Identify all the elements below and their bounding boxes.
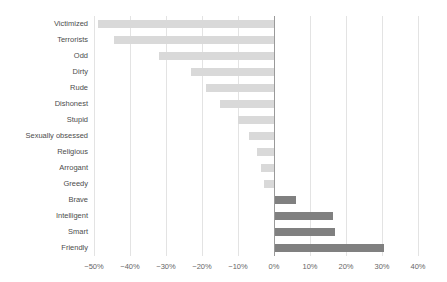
- zero-axis-line: [274, 16, 275, 256]
- bar-intelligent: [274, 212, 333, 220]
- bar-sexually-obsessed: [249, 132, 274, 140]
- y-label-arrogant: Arrogant: [0, 160, 88, 176]
- bar-dirty: [191, 68, 274, 76]
- y-label-friendly: Friendly: [0, 240, 88, 256]
- y-label-terrorists: Terrorists: [0, 32, 88, 48]
- bar-row: [94, 128, 418, 144]
- bar-row: [94, 208, 418, 224]
- bar-row: [94, 240, 418, 256]
- bar-row: [94, 48, 418, 64]
- bar-row: [94, 112, 418, 128]
- bar-row: [94, 144, 418, 160]
- y-label-brave: Brave: [0, 192, 88, 208]
- bar-row: [94, 160, 418, 176]
- bar-row: [94, 192, 418, 208]
- bar-rude: [206, 84, 274, 92]
- y-label-victimized: Victimized: [0, 16, 88, 32]
- bar-brave: [274, 196, 296, 204]
- bar-row: [94, 32, 418, 48]
- bar-row: [94, 64, 418, 80]
- x-tick-label: −20%: [182, 261, 222, 273]
- y-label-sexually-obsessed: Sexually obsessed: [0, 128, 88, 144]
- x-tick-label: 30%: [362, 261, 402, 273]
- x-tick-label: −10%: [218, 261, 258, 273]
- x-tick-label: 40%: [398, 261, 438, 273]
- y-label-dirty: Dirty: [0, 64, 88, 80]
- x-tick-label: −30%: [146, 261, 186, 273]
- bar-row: [94, 16, 418, 32]
- bar-terrorists: [114, 36, 274, 44]
- bar-stupid: [238, 116, 274, 124]
- bar-friendly: [274, 244, 384, 252]
- plot-area: [94, 16, 418, 256]
- y-label-smart: Smart: [0, 224, 88, 240]
- bar-row: [94, 80, 418, 96]
- x-tick-label: −50%: [74, 261, 114, 273]
- y-label-dishonest: Dishonest: [0, 96, 88, 112]
- x-tick-label: 20%: [326, 261, 366, 273]
- y-label-religious: Religious: [0, 144, 88, 160]
- x-axis-tick-labels: −50%−40%−30%−20%−10%0%10%20%30%40%: [0, 261, 447, 275]
- y-label-greedy: Greedy: [0, 176, 88, 192]
- x-tick-label: −40%: [110, 261, 150, 273]
- bar-arrogant: [261, 164, 274, 172]
- bar-row: [94, 224, 418, 240]
- y-label-intelligent: Intelligent: [0, 208, 88, 224]
- bar-religious: [257, 148, 274, 156]
- bar-smart: [274, 228, 335, 236]
- y-axis-category-labels: VictimizedTerroristsOddDirtyRudeDishones…: [0, 16, 88, 256]
- diverging-bar-chart: VictimizedTerroristsOddDirtyRudeDishones…: [0, 0, 447, 282]
- bar-dishonest: [220, 100, 274, 108]
- gridline-40: [418, 16, 419, 256]
- y-label-rude: Rude: [0, 80, 88, 96]
- bar-greedy: [264, 180, 274, 188]
- y-label-odd: Odd: [0, 48, 88, 64]
- bar-victimized: [98, 20, 274, 28]
- bar-row: [94, 96, 418, 112]
- bar-odd: [159, 52, 274, 60]
- bar-row: [94, 176, 418, 192]
- x-tick-label: 10%: [290, 261, 330, 273]
- y-label-stupid: Stupid: [0, 112, 88, 128]
- x-tick-label: 0%: [254, 261, 294, 273]
